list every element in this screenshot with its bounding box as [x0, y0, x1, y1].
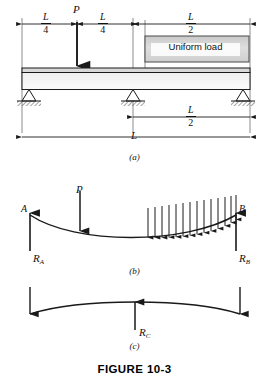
uniform-load-label: Uniform load [151, 41, 240, 52]
dim-denominator: 2 [186, 118, 196, 128]
support-center [121, 90, 145, 107]
reaction-subscript: C [146, 332, 151, 340]
dim-numerator: L [98, 12, 108, 22]
dim-numerator: L [186, 105, 196, 115]
dim-numerator: L [186, 12, 196, 22]
dim-label-half-lower: L 2 [186, 105, 196, 128]
support-right [231, 90, 255, 107]
panel-tag-c: (c) [0, 341, 269, 351]
deflected-beam-curve-b [30, 215, 236, 238]
node-label-a: A [21, 204, 27, 214]
reaction-symbol: R [139, 326, 146, 338]
reaction-subscript: B [246, 258, 250, 266]
dim-denominator: 4 [98, 25, 108, 35]
reaction-label-c: RC [139, 323, 150, 340]
reaction-subscript: A [40, 258, 44, 266]
dim-label-half-top: L 2 [186, 12, 196, 35]
dim-label-quarter-right: L 4 [98, 12, 108, 35]
figure-caption: FIGURE 10-3 [0, 363, 269, 375]
reaction-symbol: R [239, 252, 246, 264]
point-load-label-a: P [73, 4, 80, 15]
dim-denominator: 4 [41, 25, 51, 35]
panel-tag-a: (a) [0, 152, 269, 162]
panel-tag-b: (b) [0, 266, 269, 276]
reaction-symbol: R [33, 252, 40, 264]
dim-denominator: 2 [186, 25, 196, 35]
support-left [17, 90, 41, 107]
span-label: L [131, 130, 137, 141]
beam-top-flange [22, 68, 250, 73]
beam-web [22, 73, 250, 90]
reaction-label-a: RA [33, 249, 44, 266]
dim-label-quarter-left: L 4 [41, 12, 51, 35]
reaction-label-b: RB [239, 249, 250, 266]
figure-10-3: P L 4 L 4 L 2 Uniform load L 2 L (a) [0, 0, 269, 384]
node-label-b: B [239, 204, 245, 214]
dim-numerator: L [41, 12, 51, 22]
point-load-label-b: P [76, 184, 83, 195]
